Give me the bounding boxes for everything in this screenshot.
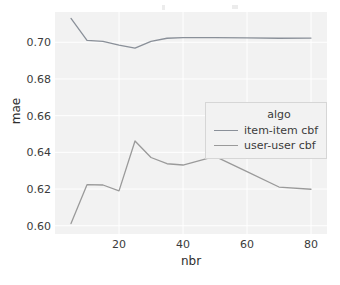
legend-item-user-user-cbf[interactable]: user-user cbf — [214, 139, 318, 152]
legend-title: algo — [214, 108, 318, 121]
legend-item-item-item-cbf[interactable]: item-item cbf — [214, 124, 318, 137]
chart-figure: 0.600.620.640.660.680.70 20406080 nbr ma… — [0, 0, 340, 285]
x-tick-label: 60 — [240, 238, 254, 251]
top-artifact-right — [232, 5, 238, 9]
legend-swatch-item-item-cbf — [214, 130, 238, 131]
y-tick-label: 0.62 — [3, 183, 51, 196]
legend-swatch-user-user-cbf — [214, 145, 238, 146]
legend-label-item-item-cbf: item-item cbf — [244, 124, 318, 137]
legend: algo item-item cbf user-user cbf — [205, 102, 327, 159]
top-artifact-left — [162, 5, 165, 10]
x-axis-ticks: 20406080 — [55, 238, 327, 254]
x-tick-label: 40 — [176, 238, 190, 251]
x-tick-label: 20 — [112, 238, 126, 251]
legend-label-user-user-cbf: user-user cbf — [244, 139, 316, 152]
y-axis-label: mae — [9, 81, 23, 141]
y-tick-label: 0.60 — [3, 219, 51, 232]
y-tick-label: 0.70 — [3, 36, 51, 49]
y-tick-label: 0.64 — [3, 146, 51, 159]
x-axis-label: nbr — [55, 254, 327, 268]
x-tick-label: 80 — [304, 238, 318, 251]
y-axis-ticks: 0.600.620.640.660.680.70 — [0, 12, 51, 234]
